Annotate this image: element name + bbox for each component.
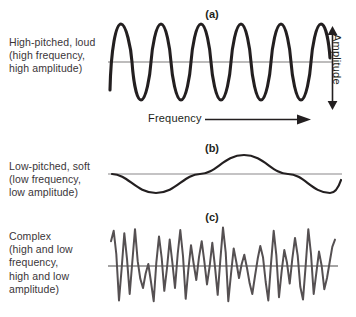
panel-a-description: High-pitched, loud (high frequency, high…: [9, 36, 113, 76]
panel-c-description-line-5: amplitude): [9, 283, 113, 296]
panel-c-complex: (c) Complex (high and low frequency, hig…: [0, 208, 356, 317]
panel-b-description: Low-pitched, soft (low frequency, low am…: [9, 160, 113, 200]
panel-b-description-line-3: low amplitude): [9, 186, 113, 199]
panel-c-description-line-3: frequency,: [9, 256, 113, 269]
panel-a-description-line-2: (high frequency,: [9, 49, 113, 62]
panel-c-description-line-4: high and low: [9, 270, 113, 283]
panel-b-description-line-2: (low frequency,: [9, 173, 113, 186]
panel-c-description-line-2: (high and low: [9, 243, 113, 256]
frequency-axis-label: Frequency: [148, 112, 202, 124]
panel-a-high-pitched: (a) High-pitched, loud (high frequency, …: [0, 0, 356, 140]
waveform-a-high-frequency: [108, 18, 332, 106]
panel-b-description-line-1: Low-pitched, soft: [9, 160, 113, 173]
panel-a-description-line-1: High-pitched, loud: [9, 36, 113, 49]
panel-c-description-line-1: Complex: [9, 230, 113, 243]
panel-b-low-pitched: (b) Low-pitched, soft (low frequency, lo…: [0, 140, 356, 208]
panel-c-description: Complex (high and low frequency, high an…: [9, 230, 113, 296]
panel-a-description-line-3: high amplitude): [9, 62, 113, 75]
frequency-arrow-icon: [205, 113, 311, 126]
waveform-b-low-frequency: [108, 150, 342, 198]
amplitude-axis-label: Amplitude: [329, 34, 343, 104]
waveform-c-complex: [108, 222, 338, 310]
